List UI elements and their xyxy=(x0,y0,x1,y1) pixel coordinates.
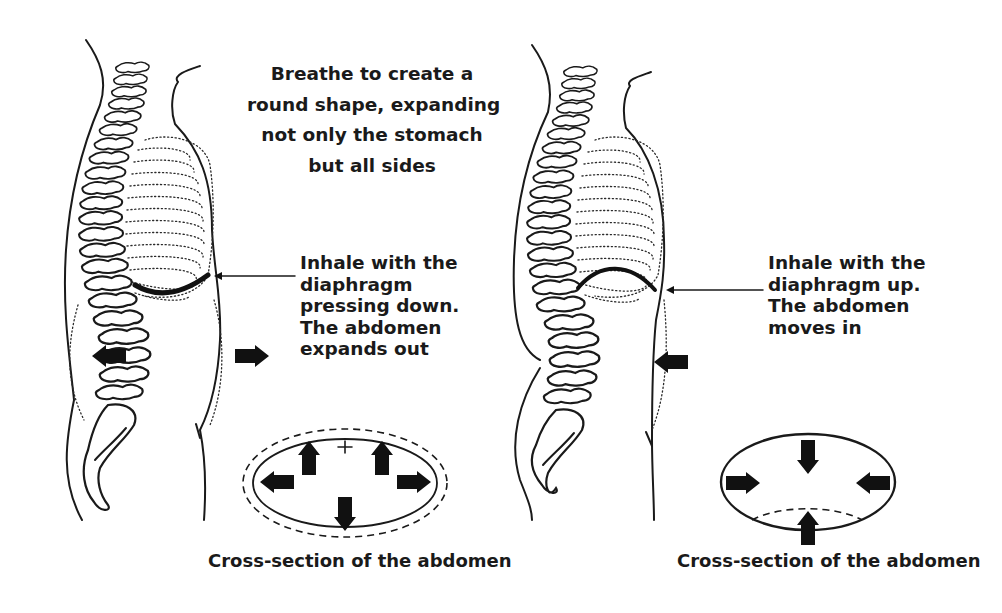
note-line: The abdomen xyxy=(300,317,459,339)
left-annotation: Inhale with the diaphragm pressing down.… xyxy=(300,252,459,360)
right-cross-section xyxy=(721,434,895,545)
left-cross-section xyxy=(243,429,447,537)
arrow-in-belly-icon xyxy=(654,351,688,373)
title-line: not only the stomach xyxy=(247,120,497,151)
note-line: expands out xyxy=(300,338,459,360)
note-line: Inhale with the xyxy=(768,252,926,274)
diaphragm-curve xyxy=(578,269,655,290)
title-line: Breathe to create a xyxy=(247,59,497,90)
diaphragm-curve xyxy=(135,275,208,293)
note-line: Inhale with the xyxy=(300,252,459,274)
main-instruction: Breathe to create a round shape, expandi… xyxy=(247,59,497,181)
right-torso-figure xyxy=(514,45,763,520)
note-line: The abdomen xyxy=(768,295,926,317)
left-cross-section-caption: Cross-section of the abdomen xyxy=(208,550,512,571)
title-line: but all sides xyxy=(247,151,497,182)
note-line: diaphragm up. xyxy=(768,274,926,296)
note-line: diaphragm xyxy=(300,274,459,296)
note-line: moves in xyxy=(768,317,926,339)
note-line: pressing down. xyxy=(300,295,459,317)
arrow-right-belly-icon xyxy=(235,345,269,367)
title-line: round shape, expanding xyxy=(247,90,497,121)
right-annotation: Inhale with the diaphragm up. The abdome… xyxy=(768,252,926,338)
right-cross-section-caption: Cross-section of the abdomen xyxy=(677,550,981,571)
